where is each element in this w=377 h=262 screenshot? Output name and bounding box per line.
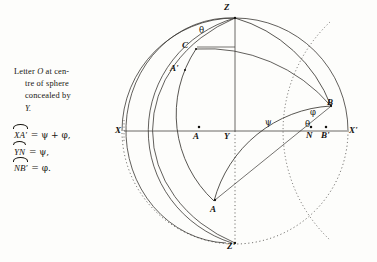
point-label-b-prime: B': [321, 131, 330, 140]
figure-page: Letter O at cen- tre of sphere concealed…: [0, 0, 377, 262]
point-dot-a-lower: [214, 199, 216, 201]
point-dot-b-prime: [325, 126, 328, 129]
meridian-through-c: [126, 18, 235, 243]
chord-a-b: [215, 107, 330, 200]
point-label-z: Z: [224, 3, 230, 12]
point-dot-z: [234, 17, 236, 19]
angle-label-phi-right: φ: [310, 108, 316, 117]
point-label-a-lower: A: [210, 205, 216, 214]
point-label-y: Y: [224, 132, 230, 141]
sphere-diagram: Z C A' B X A Y N B' X' A Z' θ ψ φ θ: [0, 0, 377, 262]
meridian-inner-left: [148, 18, 235, 243]
point-label-a: A: [193, 132, 199, 141]
point-label-x: X: [115, 126, 121, 135]
point-label-n: N: [306, 131, 313, 140]
triangle-arc-a-c: [176, 49, 214, 201]
triangle-arc-c-b: [196, 49, 331, 106]
point-label-a-prime: A': [170, 64, 179, 73]
angle-label-theta-right: θ: [305, 120, 310, 129]
point-dot-c: [195, 48, 197, 50]
point-dot-a-prime: [184, 69, 186, 71]
point-dot-n: [310, 126, 313, 129]
point-dot-a-axis: [198, 126, 201, 129]
point-label-b: B: [327, 98, 333, 107]
angle-label-psi-axis: ψ: [265, 118, 272, 127]
triangle-arc-z-b: [235, 18, 331, 106]
angle-label-theta-top: θ: [199, 26, 204, 35]
point-label-c: C: [182, 41, 188, 50]
point-label-x-prime: X': [349, 126, 358, 135]
point-label-z-prime: Z': [227, 242, 235, 251]
